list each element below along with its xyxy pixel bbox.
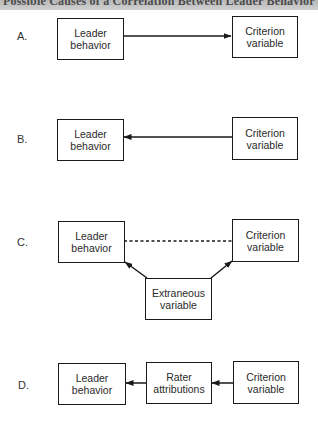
arrow-c-extraneous-to-criterion (211, 261, 232, 278)
box-c-criterion-variable: Criterion variable (232, 219, 299, 262)
box-a-criterion-line1: Criterion (245, 25, 285, 37)
box-d-criterion-line2: variable (246, 383, 286, 395)
figure-caption-strip: Possible Causes of a Correlation Between… (0, 0, 318, 10)
box-c-extraneous-variable: Extraneous variable (145, 278, 212, 320)
box-b-criterion-line1: Criterion (245, 127, 285, 139)
box-b-leader-line2: behavior (70, 140, 110, 152)
arrow-c-extraneous-to-leader (125, 262, 147, 278)
box-a-criterion-line2: variable (245, 37, 285, 49)
box-c-extraneous-line2: variable (152, 299, 205, 311)
panel-label-d: D. (18, 379, 29, 391)
box-a-leader-behavior: Leader behavior (57, 18, 124, 60)
figure-caption: Possible Causes of a Correlation Between… (3, 0, 318, 9)
box-d-rater-line2: attributions (153, 383, 204, 395)
panel-label-c: C. (17, 236, 28, 248)
box-b-criterion-line2: variable (245, 139, 285, 151)
box-b-leader-behavior: Leader behavior (57, 119, 124, 161)
box-c-extraneous-line1: Extraneous (152, 287, 205, 299)
box-c-criterion-line1: Criterion (246, 229, 286, 241)
box-d-leader-line1: Leader (72, 372, 112, 384)
box-a-leader-line2: behavior (70, 39, 110, 51)
box-c-leader-line1: Leader (71, 230, 111, 242)
panel-label-b: B. (17, 133, 27, 145)
box-d-leader-behavior: Leader behavior (58, 363, 126, 405)
box-d-criterion-line1: Criterion (246, 371, 286, 383)
box-d-rater-attributions: Rater attributions (146, 362, 212, 404)
box-c-criterion-line2: variable (246, 241, 286, 253)
panel-label-a: A. (17, 30, 27, 42)
box-a-leader-line1: Leader (70, 27, 110, 39)
box-d-criterion-variable: Criterion variable (233, 361, 299, 404)
box-b-criterion-variable: Criterion variable (232, 117, 298, 160)
box-c-leader-line2: behavior (71, 242, 111, 254)
box-d-leader-line2: behavior (72, 384, 112, 396)
box-d-rater-line1: Rater (153, 371, 204, 383)
box-b-leader-line1: Leader (70, 128, 110, 140)
box-c-leader-behavior: Leader behavior (58, 221, 125, 263)
box-a-criterion-variable: Criterion variable (232, 16, 298, 58)
